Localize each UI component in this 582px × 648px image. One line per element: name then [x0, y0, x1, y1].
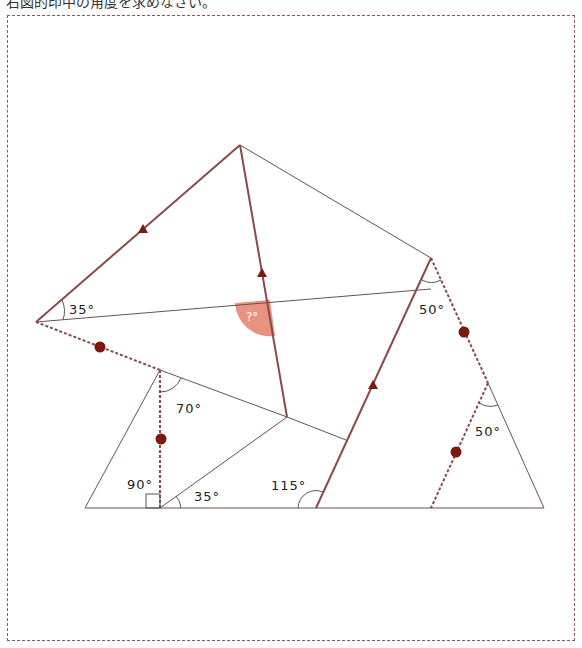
arc-70	[160, 378, 181, 392]
arc-50-top	[422, 280, 441, 282]
geometry-diagram: 35° ?° 50° 50° 70° 90° 35° 115°	[0, 0, 582, 648]
angle-label-50-lower: 50°	[475, 424, 501, 439]
equal-mark-dot-icon	[451, 447, 462, 458]
line-right-tri	[488, 383, 544, 508]
angle-label-50-top: 50°	[419, 302, 445, 317]
arc-50-lower	[479, 403, 498, 406]
angle-label-35-left: 35°	[69, 302, 95, 317]
equal-seg-right-lower	[431, 383, 488, 508]
line-left-right	[36, 289, 431, 322]
line-inner-ext	[287, 417, 346, 440]
arc-35-bottom	[176, 496, 181, 508]
equal-seg-right-upper	[431, 258, 488, 383]
parallel-line-mid	[240, 145, 287, 417]
arc-35-left	[62, 300, 64, 320]
parallel-line-left	[36, 145, 240, 322]
parallel-arrow-icon	[368, 380, 378, 389]
line-apex-right	[240, 145, 431, 258]
equal-mark-dot-icon	[459, 327, 470, 338]
angle-label-115: 115°	[271, 478, 306, 493]
equal-mark-dot-icon	[156, 434, 167, 445]
parallel-arrow-icon	[257, 268, 267, 277]
equal-mark-dot-icon	[95, 342, 106, 353]
line-inner-base	[160, 417, 287, 508]
angle-label-unknown: ?°	[246, 310, 258, 324]
angle-label-90: 90°	[127, 477, 153, 492]
angle-label-70: 70°	[176, 401, 202, 416]
right-angle-mark	[146, 494, 160, 508]
angle-label-35-bottom: 35°	[194, 489, 220, 504]
